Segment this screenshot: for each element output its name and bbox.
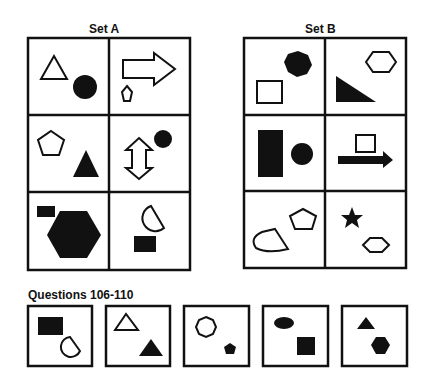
set-a-cell-3 bbox=[38, 131, 99, 177]
filled-circle-icon bbox=[291, 143, 313, 165]
set-b-cell-6 bbox=[341, 207, 389, 252]
filled-circle-icon bbox=[154, 130, 172, 148]
set-a-cell-4 bbox=[126, 130, 172, 179]
filled-hexagon-icon bbox=[47, 211, 101, 258]
set-b-cell-4 bbox=[338, 135, 393, 168]
filled-rectangle-icon bbox=[38, 317, 63, 335]
set-b-cell-3 bbox=[258, 130, 313, 177]
outline-vertical-double-arrow-icon bbox=[126, 138, 152, 179]
set-a-cell-6 bbox=[134, 206, 164, 252]
outline-pentagon-icon bbox=[290, 209, 316, 229]
outline-hexagon-icon bbox=[363, 238, 389, 252]
set-a-cell-2 bbox=[122, 53, 175, 101]
filled-square-icon bbox=[297, 337, 315, 355]
question-110[interactable] bbox=[342, 306, 407, 366]
outline-hexagon-icon bbox=[366, 52, 396, 72]
filled-right-arrow-icon bbox=[338, 151, 393, 168]
outline-fan-shape-icon bbox=[254, 229, 288, 251]
question-106[interactable] bbox=[28, 306, 92, 366]
outline-semicircle-icon bbox=[142, 206, 164, 231]
outline-rectangle-icon bbox=[257, 81, 282, 103]
set-b-cell-1 bbox=[257, 51, 312, 103]
filled-tall-rectangle-icon bbox=[258, 130, 283, 177]
filled-ellipse-icon bbox=[274, 317, 294, 329]
outline-pentagon-icon bbox=[38, 131, 64, 155]
small-outline-pentagon-icon bbox=[122, 86, 132, 101]
set-b-cell-2 bbox=[336, 52, 396, 102]
filled-heptagon-icon bbox=[284, 51, 312, 77]
filled-star-icon bbox=[341, 207, 363, 228]
filled-rectangle-icon bbox=[134, 236, 156, 252]
set-a-cell-5 bbox=[37, 206, 101, 258]
small-filled-rectangle-icon bbox=[37, 206, 55, 217]
outline-triangle-icon bbox=[41, 56, 67, 79]
filled-triangle-icon bbox=[73, 150, 99, 177]
outline-right-arrow-icon bbox=[123, 53, 175, 85]
outline-square-icon bbox=[356, 135, 375, 152]
question-108[interactable] bbox=[184, 306, 249, 366]
question-109[interactable] bbox=[263, 306, 328, 366]
question-107[interactable] bbox=[106, 306, 170, 366]
set-a-cell-1 bbox=[41, 56, 97, 99]
set-b-cell-5 bbox=[254, 209, 316, 251]
filled-right-triangle-icon bbox=[336, 76, 376, 102]
filled-circle-icon bbox=[73, 75, 97, 99]
